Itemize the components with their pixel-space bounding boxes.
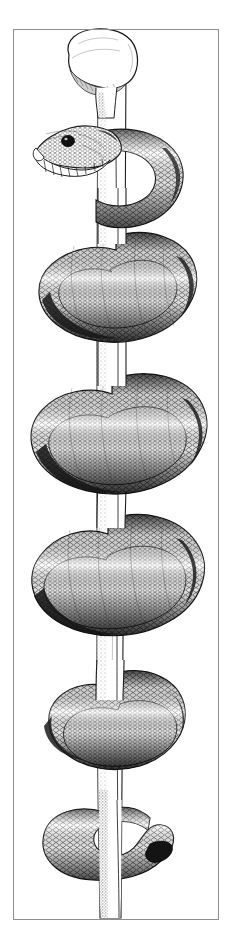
rod-of-asclepius-artwork: [0, 0, 234, 944]
illustration-root: Rod of Asclepius snake coiled around a w…: [0, 0, 234, 944]
serpent-eye: [62, 135, 75, 146]
staff-over-lower: [96, 660, 124, 700]
